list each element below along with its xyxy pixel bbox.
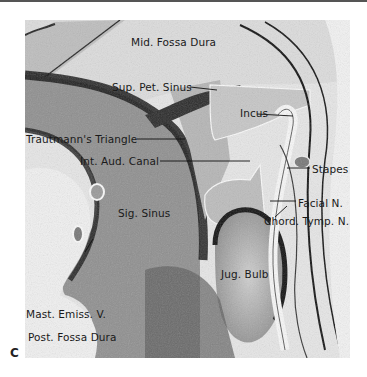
label-int-aud-canal: Int. Aud. Canal [80,155,159,167]
label-facial-n: Facial N. [298,197,343,209]
panel-letter: C [10,346,19,360]
label-jug-bulb: Jug. Bulb [221,268,268,280]
top-border-line [0,0,367,2]
label-chord-tymp-n: Chord. Tymp. N. [264,215,349,227]
label-stapes: Stapes [312,163,348,175]
label-sig-sinus: Sig. Sinus [118,207,170,219]
label-trautmanns-triangle: Trautmann's Triangle [26,133,137,145]
label-incus: Incus [240,107,268,119]
label-post-fossa-dura: Post. Fossa Dura [28,331,117,343]
label-mast-emiss-v: Mast. Emiss. V. [26,308,106,320]
label-sup-pet-sinus: Sup. Pet. Sinus [112,81,192,93]
label-mid-fossa-dura: Mid. Fossa Dura [131,36,216,48]
